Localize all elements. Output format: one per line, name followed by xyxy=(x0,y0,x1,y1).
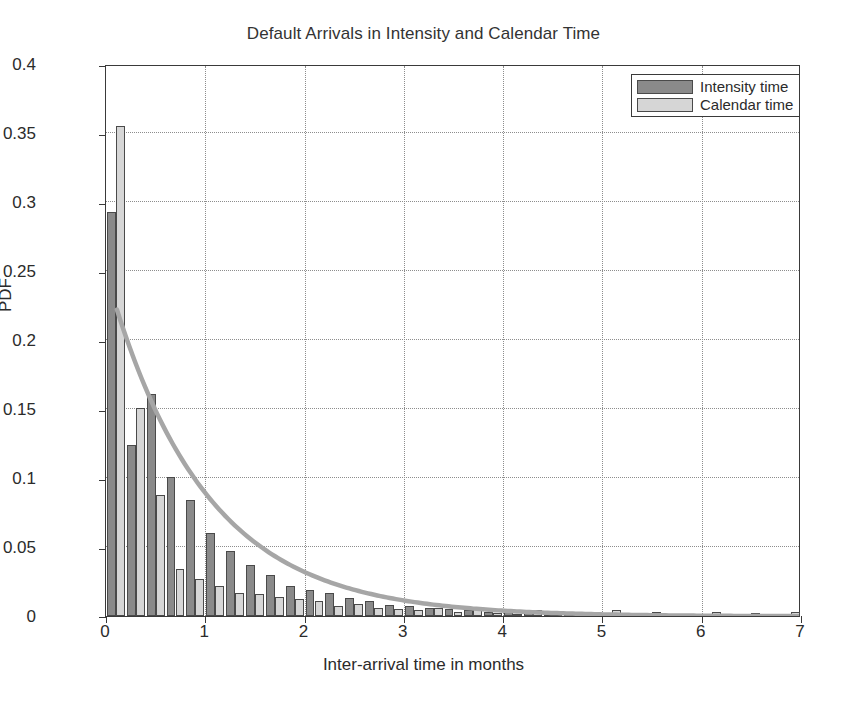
bar xyxy=(147,394,156,616)
bar xyxy=(325,593,334,616)
bar xyxy=(107,212,116,616)
bar xyxy=(584,614,593,616)
bar xyxy=(632,614,641,616)
x-tick-label: 6 xyxy=(671,622,731,642)
bar xyxy=(345,598,354,616)
bar xyxy=(425,608,434,616)
bar xyxy=(524,613,533,616)
y-tick-mark xyxy=(99,342,106,343)
x-tick-label: 2 xyxy=(274,622,334,642)
x-axis-label: Inter-arrival time in months xyxy=(0,655,847,675)
x-tick-label: 1 xyxy=(174,622,234,642)
bar xyxy=(643,614,652,616)
bar xyxy=(156,495,165,616)
bar xyxy=(127,445,136,616)
bar xyxy=(464,610,473,616)
plot-area: Intensity time Calendar time xyxy=(105,65,800,617)
y-tick-label: 0 xyxy=(0,607,36,627)
y-tick-mark xyxy=(99,204,106,205)
bar xyxy=(116,126,125,616)
bar xyxy=(365,601,374,616)
x-tick-label: 0 xyxy=(75,622,135,642)
bar xyxy=(167,477,176,616)
bar xyxy=(623,614,632,616)
bar xyxy=(454,612,463,616)
bar xyxy=(385,605,394,616)
y-tick-label: 0.4 xyxy=(0,55,36,75)
bar xyxy=(306,590,315,616)
bar xyxy=(295,599,304,616)
x-tick-mark xyxy=(106,616,107,623)
chart-title: Default Arrivals in Intensity and Calend… xyxy=(0,24,847,44)
bar-group xyxy=(106,66,799,616)
x-tick-label: 5 xyxy=(571,622,631,642)
x-tick-label: 4 xyxy=(472,622,532,642)
x-tick-mark xyxy=(602,616,603,623)
y-tick-label: 0.15 xyxy=(0,400,36,420)
bar xyxy=(544,613,553,616)
y-tick-mark xyxy=(99,135,106,136)
y-tick-mark xyxy=(99,66,106,67)
bar xyxy=(493,613,502,616)
bar xyxy=(275,597,284,616)
x-tick-label: 7 xyxy=(770,622,830,642)
y-tick-mark xyxy=(99,617,106,618)
legend-item-calendar-time: Calendar time xyxy=(637,97,793,112)
bar xyxy=(712,612,721,616)
bar xyxy=(553,613,562,616)
legend-swatch-intensity-time xyxy=(637,80,693,94)
y-axis-label: PDF xyxy=(0,278,16,312)
x-tick-label: 3 xyxy=(373,622,433,642)
bar xyxy=(683,614,692,616)
bar xyxy=(692,614,701,616)
y-tick-mark xyxy=(99,411,106,412)
bar xyxy=(246,565,255,616)
x-tick-mark xyxy=(503,616,504,623)
bar xyxy=(266,575,275,616)
bar xyxy=(206,533,215,616)
y-tick-label: 0.1 xyxy=(0,469,36,489)
legend-label-calendar-time: Calendar time xyxy=(700,97,793,112)
bar xyxy=(255,594,264,616)
bar xyxy=(473,609,482,616)
y-tick-mark xyxy=(99,549,106,550)
bar xyxy=(286,586,295,616)
bar xyxy=(513,614,522,616)
bar xyxy=(235,593,244,616)
bar xyxy=(791,612,800,616)
x-tick-mark xyxy=(801,616,802,623)
x-tick-mark xyxy=(205,616,206,623)
y-tick-label: 0.25 xyxy=(0,262,36,282)
bar xyxy=(315,601,324,616)
y-tick-label: 0.05 xyxy=(0,538,36,558)
x-tick-mark xyxy=(702,616,703,623)
bar xyxy=(215,586,224,616)
bar xyxy=(771,614,780,616)
y-tick-label: 0.35 xyxy=(0,124,36,144)
bar xyxy=(652,612,661,616)
bar xyxy=(136,408,145,616)
bar xyxy=(732,614,741,616)
legend-swatch-calendar-time xyxy=(637,98,693,112)
y-tick-label: 0.2 xyxy=(0,331,36,351)
bar xyxy=(226,551,235,616)
bar xyxy=(564,613,573,616)
legend-label-intensity-time: Intensity time xyxy=(700,79,788,94)
bar xyxy=(445,609,454,616)
bar xyxy=(374,608,383,616)
y-tick-mark xyxy=(99,273,106,274)
x-tick-mark xyxy=(404,616,405,623)
chart-legend: Intensity time Calendar time xyxy=(631,74,800,117)
bar xyxy=(672,614,681,616)
bar xyxy=(663,614,672,616)
bar xyxy=(751,613,760,616)
bar xyxy=(434,608,443,616)
y-tick-mark xyxy=(99,480,106,481)
bar xyxy=(176,569,185,616)
bar xyxy=(334,606,343,616)
bar xyxy=(394,609,403,616)
bar xyxy=(405,606,414,616)
bar xyxy=(354,604,363,616)
bar xyxy=(414,610,423,616)
x-tick-mark xyxy=(305,616,306,623)
